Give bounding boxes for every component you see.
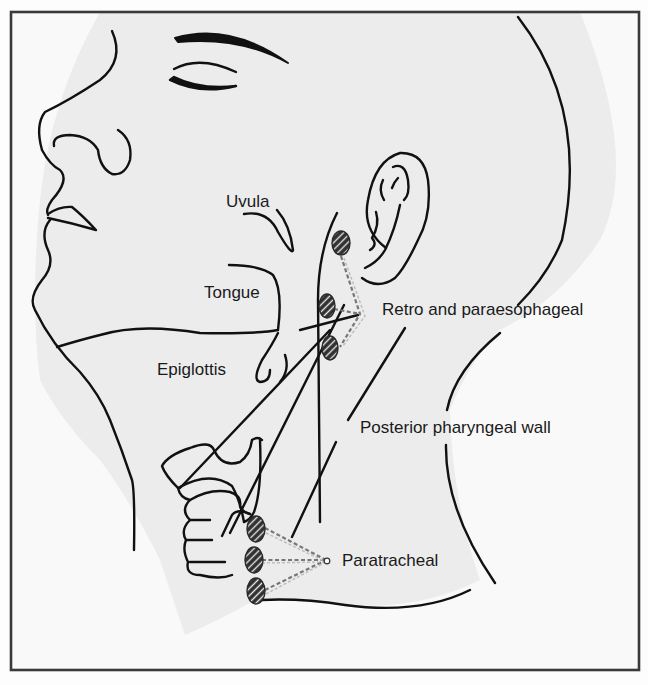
label-retro-paraesophageal: Retro and paraesophageal <box>382 300 583 319</box>
label-epiglottis: Epiglottis <box>157 360 226 379</box>
label-uvula: Uvula <box>226 192 270 211</box>
label-paratracheal: Paratracheal <box>342 551 438 570</box>
lymph-node <box>247 578 265 604</box>
lymph-node <box>332 231 350 255</box>
lymph-node <box>319 294 335 318</box>
lymph-node <box>245 547 263 573</box>
lymph-node <box>322 336 338 360</box>
lymph-node <box>247 516 265 542</box>
label-tongue: Tongue <box>204 283 260 302</box>
head-neck-lymph-node-diagram: Uvula Tongue Epiglottis Retro and paraes… <box>0 0 648 685</box>
label-posterior-pharyngeal-wall: Posterior pharyngeal wall <box>360 418 551 437</box>
leader-junction-point <box>324 558 330 564</box>
